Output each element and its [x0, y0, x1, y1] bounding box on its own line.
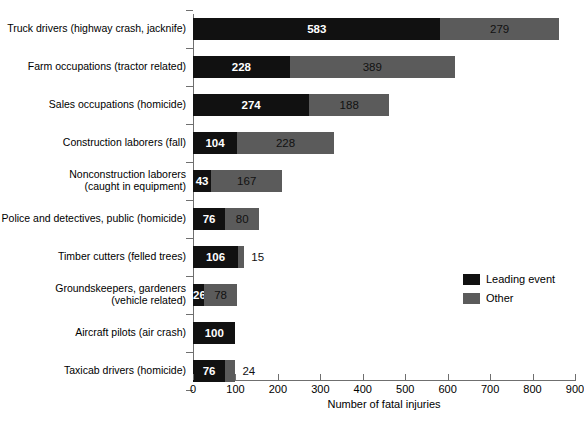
- legend-item-leading-event: Leading event: [463, 271, 555, 287]
- bar-value-leading-event: 100: [193, 322, 235, 344]
- bar-value-other: 167: [211, 170, 282, 192]
- bar-row: 583279: [193, 18, 559, 40]
- x-axis-tick: [405, 374, 406, 380]
- category-label-line: Groundskeepers, gardeners: [0, 282, 186, 295]
- bar-value-leading-event: 26: [193, 284, 204, 306]
- bar-value-leading-event: 76: [193, 360, 225, 382]
- y-axis-tick: [186, 86, 193, 87]
- category-label: Construction laborers (fall): [0, 136, 186, 149]
- x-axis-title: Number of fatal injuries: [193, 398, 575, 410]
- category-label: Taxicab drivers (homicide): [0, 364, 186, 377]
- category-label-line: Police and detectives, public (homicide): [0, 212, 186, 225]
- x-axis-tick: [448, 374, 449, 380]
- bar-value-leading-event: 106: [193, 246, 238, 268]
- y-axis-tick: [186, 200, 193, 201]
- x-axis-tick-label: 100: [226, 383, 244, 395]
- category-label: Nonconstruction laborers(caught in equip…: [0, 168, 186, 193]
- x-axis-tick-label: 900: [566, 383, 584, 395]
- x-axis-tick-label: 200: [269, 383, 287, 395]
- legend-swatch-other: [463, 293, 480, 304]
- x-axis-tick-label: 300: [311, 383, 329, 395]
- bar-row: 228389: [193, 56, 455, 78]
- category-label-line: Timber cutters (felled trees): [0, 250, 186, 263]
- legend-swatch-leading-event: [463, 274, 480, 285]
- bar-row: 100: [193, 322, 235, 344]
- category-label-line: (vehicle related): [0, 294, 186, 307]
- bar-value-other: 15: [251, 246, 264, 268]
- x-axis-tick: [575, 374, 576, 380]
- y-axis-tick: [186, 48, 193, 49]
- bar-value-leading-event: 104: [193, 132, 237, 154]
- legend-label-leading-event: Leading event: [486, 273, 555, 285]
- category-label: Timber cutters (felled trees): [0, 250, 186, 263]
- bar-value-leading-event: 228: [193, 56, 290, 78]
- x-axis-tick: [533, 374, 534, 380]
- bar-value-other: 78: [204, 284, 237, 306]
- bar-segment-other: [238, 246, 244, 268]
- category-label-line: Construction laborers (fall): [0, 136, 186, 149]
- category-label: Police and detectives, public (homicide): [0, 212, 186, 225]
- y-axis-tick: [186, 162, 193, 163]
- bar-value-leading-event: 76: [193, 208, 225, 230]
- bar-row: 7624: [193, 360, 235, 382]
- y-axis-tick: [186, 124, 193, 125]
- bar-value-other: 24: [242, 360, 255, 382]
- category-label-line: Taxicab drivers (homicide): [0, 364, 186, 377]
- category-label-line: Farm occupations (tractor related): [0, 60, 186, 73]
- fatal-injuries-bar-chart: Truck drivers (highway crash, jacknife)F…: [0, 0, 584, 433]
- x-axis-tick-label: 700: [481, 383, 499, 395]
- bar-value-leading-event: 583: [193, 18, 440, 40]
- bar-value-other: 228: [237, 132, 334, 154]
- bar-value-leading-event: 43: [193, 170, 211, 192]
- category-label-line: Truck drivers (highway crash, jacknife): [0, 22, 186, 35]
- x-axis-tick-label: 0: [190, 383, 196, 395]
- bar-row: 43167: [193, 170, 282, 192]
- x-axis-tick: [320, 374, 321, 380]
- bar-value-other: 279: [440, 18, 558, 40]
- x-axis-tick: [490, 374, 491, 380]
- bar-segment-other: [225, 360, 235, 382]
- category-label: Groundskeepers, gardeners(vehicle relate…: [0, 282, 186, 307]
- x-axis-tick: [193, 374, 194, 380]
- bar-value-leading-event: 274: [193, 94, 309, 116]
- x-axis-tick-label: 500: [396, 383, 414, 395]
- category-label: Truck drivers (highway crash, jacknife): [0, 22, 186, 35]
- bar-row: 104228: [193, 132, 334, 154]
- y-axis-tick: [186, 352, 193, 353]
- legend: Leading event Other: [463, 271, 555, 309]
- x-axis-tick: [363, 374, 364, 380]
- category-label-line: (caught in equipment): [0, 180, 186, 193]
- category-label: Farm occupations (tractor related): [0, 60, 186, 73]
- legend-label-other: Other: [486, 292, 514, 304]
- y-axis-tick: [186, 238, 193, 239]
- category-label-line: Aircraft pilots (air crash): [0, 326, 186, 339]
- category-label: Aircraft pilots (air crash): [0, 326, 186, 339]
- bar-value-other: 389: [290, 56, 455, 78]
- bar-value-other: 188: [309, 94, 389, 116]
- bar-row: 2678: [193, 284, 237, 306]
- y-axis-tick: [186, 314, 193, 315]
- category-label-line: Nonconstruction laborers: [0, 168, 186, 181]
- legend-item-other: Other: [463, 290, 555, 306]
- y-axis-tick: [186, 10, 193, 11]
- x-axis-tick: [278, 374, 279, 380]
- x-axis-tick-label: 800: [523, 383, 541, 395]
- x-axis-tick-label: 400: [354, 383, 372, 395]
- bar-row: 10615: [193, 246, 244, 268]
- y-axis-tick: [186, 276, 193, 277]
- x-axis-tick-label: 600: [438, 383, 456, 395]
- category-label: Sales occupations (homicide): [0, 98, 186, 111]
- category-label-line: Sales occupations (homicide): [0, 98, 186, 111]
- bar-row: 7680: [193, 208, 259, 230]
- x-axis-tick: [235, 374, 236, 380]
- bar-row: 274188: [193, 94, 389, 116]
- bar-value-other: 80: [225, 208, 259, 230]
